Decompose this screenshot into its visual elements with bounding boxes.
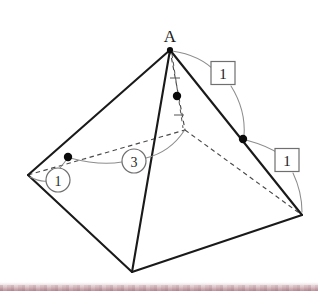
edge-apex-to-frontright <box>170 50 302 215</box>
boxed-label-lower-right[interactable]: 1 <box>275 149 299 172</box>
apex-label-A: A <box>164 27 177 46</box>
boxed-label-upper-right-text: 1 <box>219 66 227 82</box>
circled-label-three-text: 3 <box>131 155 138 170</box>
pyramid-figure-canvas: 1 1 1 3 A <box>0 0 318 291</box>
marker-apex-dot <box>167 47 173 53</box>
circled-label-three[interactable]: 3 <box>122 149 146 173</box>
pyramid-diagram-svg: 1 1 1 3 A <box>0 0 318 291</box>
marker-point-on-right-edge <box>239 135 247 143</box>
boxed-label-upper-right[interactable]: 1 <box>211 62 235 85</box>
bottom-color-strip <box>0 282 318 291</box>
boxed-label-lower-right-text: 1 <box>283 153 291 169</box>
circled-label-one-text: 1 <box>55 174 62 189</box>
circled-label-one[interactable]: 1 <box>46 168 70 192</box>
edge-frontleft-to-frontbottom <box>28 175 132 272</box>
marker-point-on-base-edge <box>64 153 72 161</box>
marker-point-on-altitude <box>173 92 181 100</box>
edge-frontbottom-to-frontright <box>132 215 302 272</box>
edge-apex-to-frontleft <box>28 50 170 175</box>
hidden-edge-apex-to-back <box>170 50 185 130</box>
bottom-color-strip-texture <box>0 285 318 291</box>
